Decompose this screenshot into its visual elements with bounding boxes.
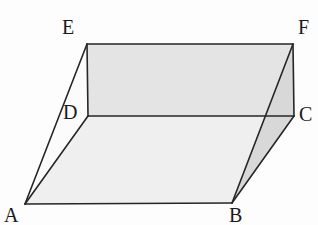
vertex-label-d: D <box>63 102 77 122</box>
vertex-label-e: E <box>62 17 74 37</box>
geometry-figure: ABCDEF <box>0 0 318 225</box>
vertex-label-c: C <box>299 104 312 124</box>
vertex-label-a: A <box>4 205 18 225</box>
edge-ab <box>25 203 232 204</box>
face-DCFE <box>87 44 294 116</box>
figure-canvas <box>0 0 318 225</box>
edge-de <box>87 44 88 116</box>
vertex-label-b: B <box>229 205 242 225</box>
faces-group <box>25 44 294 204</box>
vertex-label-f: F <box>298 17 309 37</box>
edge-fc <box>293 44 294 116</box>
